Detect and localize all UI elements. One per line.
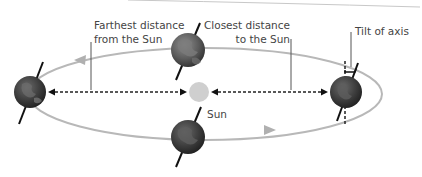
closest-distance-label-line2: to the Sun — [236, 33, 290, 45]
earth-bottom — [171, 107, 205, 167]
farthest-arrowhead-left — [48, 89, 55, 96]
closest-arrowhead-right — [321, 89, 328, 96]
sun — [189, 82, 209, 102]
closest-distance-label: Closest distance — [204, 19, 290, 31]
farthest-arrowhead-right — [180, 89, 187, 96]
sun-label: Sun — [207, 108, 227, 120]
tilt-of-axis-label: Tilt of axis — [354, 25, 409, 37]
top-border-line — [128, 0, 420, 7]
closest-arrowhead-left — [211, 89, 218, 96]
earth-top — [171, 23, 205, 80]
farthest-distance-label-line2: from the Sun — [94, 33, 162, 45]
farthest-distance-label: Farthest distance — [94, 19, 184, 31]
orbit-direction-arrow-bottom — [264, 125, 276, 135]
earth-orbit-diagram: Farthest distance from the Sun Closest d… — [0, 0, 422, 177]
earth-left — [14, 62, 46, 124]
